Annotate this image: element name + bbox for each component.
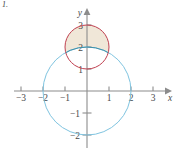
y-axis-name: y	[77, 8, 83, 18]
y-tick-label-1: 1	[78, 65, 83, 75]
x-tick-label-1: 1	[107, 93, 112, 103]
y-axis-arrowhead	[84, 8, 91, 15]
y-tick-label--1: −1	[70, 109, 80, 119]
x-axis: −3 −2 −1 1 2 3 x	[14, 87, 173, 104]
figure-container: 1. −3	[0, 0, 184, 153]
x-tick-label--1: −1	[60, 93, 70, 103]
x-axis-name: x	[167, 93, 173, 103]
x-tick-label-3: 3	[151, 93, 156, 103]
figure-corner-label: 1.	[2, 1, 8, 9]
coordinate-plane-graph: −3 −2 −1 1 2 3 x 3 2 1 −1 −2 y	[0, 0, 184, 153]
x-tick-label--3: −3	[16, 93, 26, 103]
